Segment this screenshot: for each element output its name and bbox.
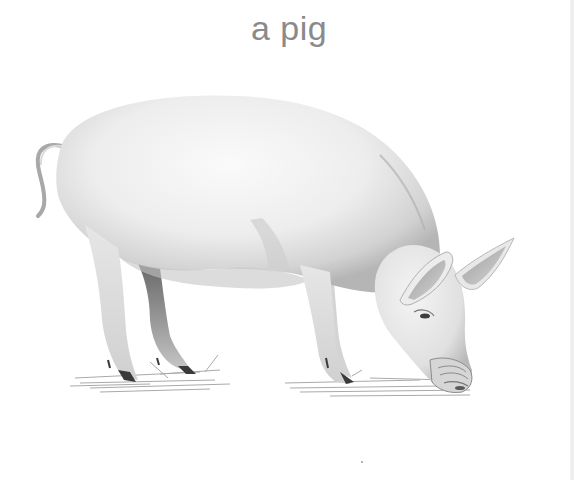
right-edge-border — [570, 0, 574, 480]
pig-illustration — [0, 0, 578, 480]
